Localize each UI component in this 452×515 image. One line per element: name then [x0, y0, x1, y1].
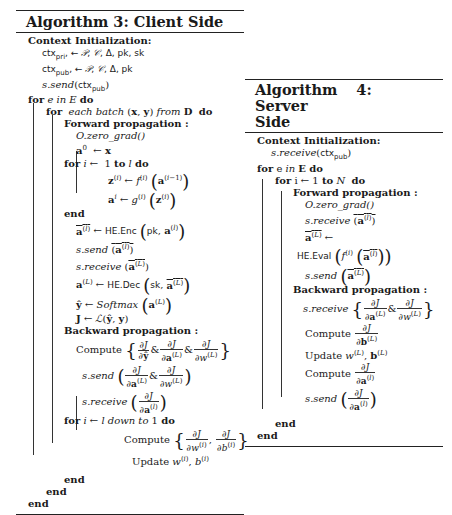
update-wb-line: Update w(L), b(L): [245, 347, 443, 362]
send-grad-line: s.send (∂J∂a(l)): [245, 386, 443, 412]
end-layer-for: end: [16, 208, 244, 220]
title-line-1: Algorithm 4: Server: [255, 82, 439, 114]
compute-grads-line: Compute {∂J∂ŷ&∂J∂a(L)&∂J∂w(L)}: [16, 337, 244, 363]
algorithm-4-body: Context Initialization: s.receive(ctxpub…: [245, 133, 443, 446]
bottom-rule: [245, 446, 443, 447]
send-grads-line: s.send (∂J∂a(L)&∂J∂w(L)): [16, 363, 244, 389]
receive-grad-line: s.receive (∂J∂a(l)): [16, 389, 244, 415]
zero-grad-line: O.zero_grad(): [245, 199, 443, 211]
batch-for-line: for each batch (x, y) from D do: [16, 106, 244, 118]
softmax-line: ŷ ← Softmax (a(L)): [16, 294, 244, 313]
aL-assign-line: a(L) ←: [245, 228, 443, 245]
send-enc-line: s.send (a(l)): [16, 240, 244, 257]
loss-line: J ← ℒ(ŷ, y): [16, 313, 244, 325]
a-assign-line: ai ← g(i) (z(i)): [16, 189, 244, 208]
compute-b-line: Compute ∂J∂b(L): [245, 322, 443, 347]
ctx-pri-line: ctxpri, ← 𝒫, 𝒞, Δ, pk, sk: [16, 47, 244, 63]
compute-layer-line: Compute {∂J∂w(i), ∂J∂b(i)}: [16, 427, 244, 453]
algorithm-3-title: Algorithm 3: Client Side: [16, 11, 244, 32]
receive-enc-line: s.receive (a(l)): [245, 211, 443, 228]
layer-for-line: for i ← 1 to l do: [16, 158, 244, 170]
he-enc-line: a(l) ← HE.Enc (pk, a(l)): [16, 220, 244, 239]
end-batch-for: end: [16, 486, 244, 498]
zero-grad-line: O.zero_grad(): [16, 130, 244, 142]
algorithm-3-client-side: Algorithm 3: Client Side Context Initial…: [16, 10, 244, 515]
receive-grads-line: s.receive {∂J∂a(L)&∂J∂w(L)}: [245, 296, 443, 322]
forward-label: Forward propagation :: [16, 118, 244, 130]
end-outer-for: end: [245, 430, 443, 442]
layer-for-line: for i ← 1 to N do: [245, 175, 443, 187]
he-eval-line: HE.Eval (f(i) (a(l))): [245, 245, 443, 264]
receive-enc-line: s.receive (a(L)): [16, 257, 244, 274]
z-assign-line: z(i) ← f(i) (a(i−1)): [16, 170, 244, 189]
send-enc-line: s.send (a(L)): [245, 265, 443, 284]
algorithm-4-title: Algorithm 4: Server Side: [245, 80, 443, 132]
outer-for-line: for e in E do: [16, 94, 244, 106]
forward-label: Forward propagation :: [245, 187, 443, 199]
compute-a-line: Compute ∂J∂a(l): [245, 362, 443, 387]
context-init-label: Context Initialization:: [245, 135, 443, 147]
backward-label: Backward propagation :: [16, 325, 244, 337]
end-down-for: end: [16, 474, 244, 486]
backward-label: Backward propagation :: [245, 284, 443, 296]
title-line-2: Side: [255, 114, 439, 130]
send-ctx-line: s.send(ctxpub): [16, 79, 244, 95]
ctx-pub-line: ctxpub, ← 𝒫, 𝒞, Δ, pk: [16, 63, 244, 79]
end-layer-for: end: [245, 418, 443, 430]
outer-for-line: for e in E do: [245, 163, 443, 175]
algorithm-3-body: Context Initialization: ctxpri, ← 𝒫, 𝒞, …: [16, 33, 244, 514]
receive-ctx-line: s.receive(ctxpub): [245, 147, 443, 163]
he-dec-line: a(L) ← HE.Dec (sk, a(L)): [16, 274, 244, 293]
algorithm-4-server-side: Algorithm 4: Server Side Context Initial…: [245, 79, 443, 447]
down-for-line: for i ← l down to 1 do: [16, 415, 244, 427]
context-init-label: Context Initialization:: [16, 35, 244, 47]
a0-assign-line: a0 ← x: [16, 142, 244, 157]
update-layer-line: Update w(i), b(i): [16, 453, 244, 468]
end-outer-for: end: [16, 498, 244, 510]
